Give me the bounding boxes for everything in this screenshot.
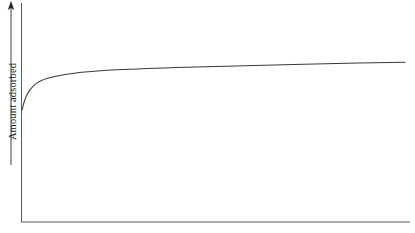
y-axis-arrow-icon [8, 2, 14, 166]
plot-canvas [0, 0, 415, 233]
isotherm-curve [22, 62, 405, 110]
adsorption-isotherm-figure: Amount adsorbed [0, 0, 415, 233]
